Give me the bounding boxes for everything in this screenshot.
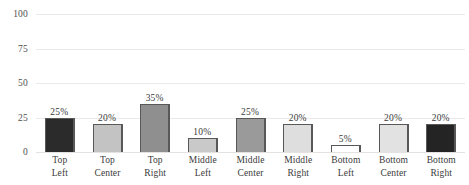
x-label-line1: Middle xyxy=(179,154,227,167)
bar-value-top-right: 35% xyxy=(146,93,164,103)
x-label-bottom-right: Bottom Right xyxy=(417,154,465,180)
x-label-line2: Left xyxy=(36,167,84,180)
x-label-line1: Middle xyxy=(274,154,322,167)
x-label-top-center: Top Center xyxy=(84,154,132,180)
bar-slot-bottom-left: 5% xyxy=(322,14,370,152)
bar-slot-bottom-right: 20% xyxy=(417,14,465,152)
bar-top-left: 25% xyxy=(45,118,75,153)
x-label-top-left: Top Left xyxy=(36,154,84,180)
bar-bottom-left: 5% xyxy=(331,145,361,152)
x-label-middle-center: Middle Center xyxy=(227,154,275,180)
x-label-line2: Right xyxy=(417,167,465,180)
x-label-bottom-center: Bottom Center xyxy=(370,154,418,180)
x-label-line1: Top xyxy=(84,154,132,167)
bar-slot-middle-left: 10% xyxy=(179,14,227,152)
bar-series: 25% 20% 35% 10% 25% 20% xyxy=(36,14,465,152)
bar-value-bottom-center: 20% xyxy=(384,113,402,123)
bar-value-middle-right: 20% xyxy=(289,113,307,123)
x-label-line2: Left xyxy=(322,167,370,180)
x-label-line2: Center xyxy=(84,167,132,180)
x-label-line2: Left xyxy=(179,167,227,180)
x-label-line1: Middle xyxy=(227,154,275,167)
y-tick-100: 100 xyxy=(13,9,28,19)
x-label-line1: Bottom xyxy=(417,154,465,167)
bar-slot-top-right: 35% xyxy=(131,14,179,152)
bar-bottom-right: 20% xyxy=(426,124,456,152)
bar-slot-middle-right: 20% xyxy=(274,14,322,152)
y-tick-0: 0 xyxy=(23,147,28,157)
bar-slot-top-left: 25% xyxy=(36,14,84,152)
x-label-top-right: Top Right xyxy=(131,154,179,180)
y-tick-25: 25 xyxy=(18,113,28,123)
bar-value-middle-center: 25% xyxy=(241,107,259,117)
bar-value-top-left: 25% xyxy=(50,107,68,117)
x-label-bottom-left: Bottom Left xyxy=(322,154,370,180)
x-label-line1: Bottom xyxy=(322,154,370,167)
gridline-0 xyxy=(36,152,465,153)
bar-slot-bottom-center: 20% xyxy=(370,14,418,152)
bar-middle-center: 25% xyxy=(236,118,266,153)
x-axis: Top Left Top Center Top Right Middle Lef… xyxy=(36,154,465,180)
bar-top-right: 35% xyxy=(140,104,170,152)
bar-value-bottom-left: 5% xyxy=(339,134,352,144)
y-axis: 100 75 50 25 0 xyxy=(0,14,28,152)
x-label-line2: Right xyxy=(131,167,179,180)
bar-middle-right: 20% xyxy=(283,124,313,152)
x-label-middle-left: Middle Left xyxy=(179,154,227,180)
bar-value-middle-left: 10% xyxy=(193,127,211,137)
y-tick-50: 50 xyxy=(18,78,28,88)
y-tick-75: 75 xyxy=(18,44,28,54)
x-label-line2: Center xyxy=(227,167,275,180)
bar-top-center: 20% xyxy=(93,124,123,152)
bar-chart: 100 75 50 25 0 25% 20% 35% 10% xyxy=(0,0,469,185)
x-label-line1: Top xyxy=(36,154,84,167)
x-label-line1: Top xyxy=(131,154,179,167)
x-label-line2: Center xyxy=(370,167,418,180)
x-label-middle-right: Middle Right xyxy=(274,154,322,180)
bar-value-top-center: 20% xyxy=(98,113,116,123)
bar-bottom-center: 20% xyxy=(379,124,409,152)
bar-middle-left: 10% xyxy=(188,138,218,152)
bar-value-bottom-right: 20% xyxy=(432,113,450,123)
x-label-line2: Right xyxy=(274,167,322,180)
x-label-line1: Bottom xyxy=(370,154,418,167)
bar-slot-middle-center: 25% xyxy=(227,14,275,152)
bar-slot-top-center: 20% xyxy=(84,14,132,152)
